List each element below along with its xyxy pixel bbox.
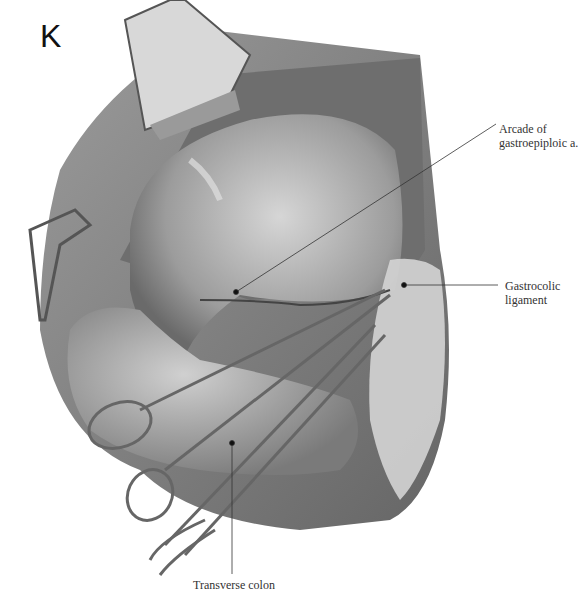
panel-letter: K bbox=[40, 18, 61, 55]
illustration-drawing bbox=[0, 0, 584, 592]
surgical-illustration: K Arcade of gastroepiploic a. Gastrocoli… bbox=[0, 0, 584, 592]
label-gastrocolic-ligament: Gastrocolic ligament bbox=[505, 279, 560, 307]
label-arcade-gastroepiploic: Arcade of gastroepiploic a. bbox=[499, 122, 578, 150]
label-transverse-colon: Transverse colon bbox=[193, 578, 275, 592]
